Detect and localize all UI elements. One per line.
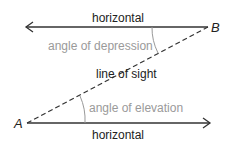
line-of-sight-label: line of sight bbox=[96, 67, 157, 81]
angle-elevation-arc bbox=[80, 96, 85, 123]
top-horizontal-label: horizontal bbox=[92, 11, 144, 25]
diagram-canvas: horizontal angle of depression line of s… bbox=[0, 0, 231, 147]
point-b-label: B bbox=[211, 20, 220, 35]
angle-elevation-label: angle of elevation bbox=[89, 101, 183, 115]
bottom-horizontal-label: horizontal bbox=[92, 128, 144, 142]
bottom-horizontal-line bbox=[27, 118, 210, 128]
angle-depression-label: angle of depression bbox=[48, 39, 153, 53]
angle-depression-arc bbox=[152, 27, 158, 53]
point-a-label: A bbox=[13, 116, 23, 131]
